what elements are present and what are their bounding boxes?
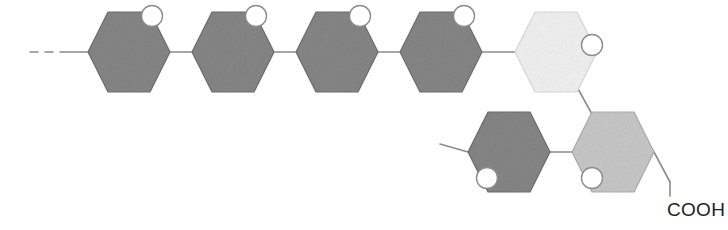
- branch-bond-5-7: [577, 87, 593, 116]
- oxygen-atom-icon: [246, 6, 267, 27]
- oxygen-atom-icon: [477, 168, 498, 189]
- labels-layer: COOH: [667, 199, 725, 220]
- oxygen-atom-icon: [582, 168, 603, 189]
- cooh-label: COOH: [667, 199, 725, 220]
- rings-layer: [88, 12, 654, 192]
- bond-ring-7-to-cooh: [654, 152, 670, 182]
- bond-ring-6-open-end: [440, 144, 468, 152]
- oxygen-atom-icon: [350, 6, 371, 27]
- oxygen-atom-icon: [582, 35, 603, 56]
- molecule-canvas: COOH: [0, 0, 728, 230]
- molecule-diagram: COOH: [0, 0, 728, 230]
- oxygen-atom-icon: [454, 6, 475, 27]
- oxygen-atom-icon: [142, 6, 163, 27]
